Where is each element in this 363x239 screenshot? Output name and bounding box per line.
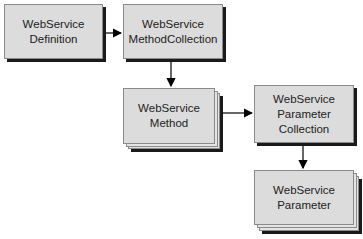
- node-webservice-definition: WebService Definition: [4, 4, 103, 59]
- node-webservice-method: WebService Method: [123, 88, 215, 144]
- node-label-line: WebService: [23, 17, 85, 32]
- node-label-line: Method: [138, 116, 200, 131]
- node-label-line: Definition: [23, 32, 85, 47]
- node-label-line: Collection: [273, 122, 335, 137]
- node-webservice-parametercollection: WebService Parameter Collection: [254, 85, 354, 143]
- node-label-line: Parameter: [273, 107, 335, 122]
- node-label-line: WebService: [273, 183, 335, 198]
- node-webservice-methodcollection: WebService MethodCollection: [123, 4, 223, 59]
- node-label-line: Parameter: [273, 198, 335, 213]
- node-label-line: WebService: [129, 17, 218, 32]
- node-label-line: WebService: [273, 92, 335, 107]
- node-webservice-parameter: WebService Parameter: [254, 170, 354, 225]
- node-label-line: WebService: [138, 101, 200, 116]
- node-label-line: MethodCollection: [129, 32, 218, 47]
